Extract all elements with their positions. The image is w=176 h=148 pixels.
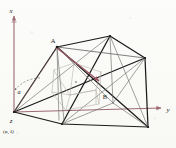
edge-bottommid-bottomright <box>62 124 148 127</box>
x-axis-label: x <box>8 7 13 15</box>
point-a-label: A <box>51 37 56 44</box>
origin-coords-label: (φ, λ) <box>3 129 14 135</box>
edge-a-right <box>57 47 145 58</box>
edge-origin-bottommid <box>14 112 62 124</box>
edge-right-bottomright <box>145 58 148 127</box>
vertex-right-dot <box>144 57 146 59</box>
inner-edge-3 <box>70 63 74 95</box>
geometry-diagram: x y z (φ, λ) A B α <box>0 0 176 148</box>
vertex-topright-dot <box>109 35 111 37</box>
edge-a-topright <box>57 36 110 47</box>
inner-edge-1 <box>52 70 54 92</box>
edge-thin-topright-down <box>110 36 113 103</box>
y-axis-label: y <box>165 106 170 114</box>
vertex-bottommid-dot <box>61 123 63 125</box>
vector-a-to-point <box>57 48 99 81</box>
axis-group <box>12 16 162 112</box>
inner-center-dot <box>75 81 77 83</box>
vector-origin-to-a-faint <box>14 48 57 112</box>
vertex-origin-dot <box>13 111 15 113</box>
edge-topright-right <box>110 36 145 58</box>
y-axis-line <box>14 108 161 112</box>
inner-edge-4 <box>66 95 70 110</box>
edge-topright-bottommid <box>62 36 110 124</box>
angle-alpha-label: α <box>17 89 21 95</box>
point-b-label: B <box>103 93 108 100</box>
vertex-a-dot <box>56 46 59 49</box>
origin-z-label: z <box>9 117 13 125</box>
vertex-bottomright-dot <box>147 126 149 128</box>
figure-root: x y z (φ, λ) A B α <box>0 0 176 148</box>
